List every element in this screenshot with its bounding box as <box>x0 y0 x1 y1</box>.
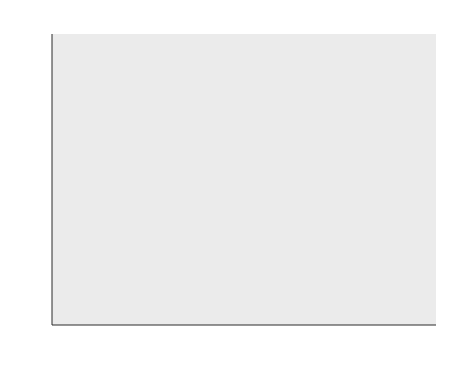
scatter-plot <box>0 0 452 370</box>
figure-panel-b <box>0 0 452 370</box>
plot-background <box>52 34 436 325</box>
